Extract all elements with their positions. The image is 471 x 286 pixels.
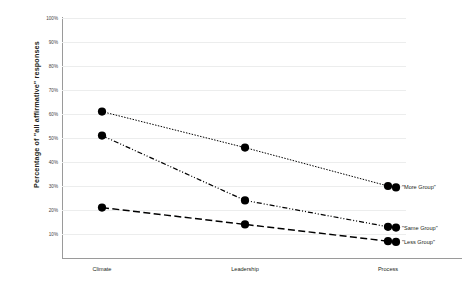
data-point-marker [98, 108, 106, 116]
series-end-marker [392, 224, 400, 232]
data-point-marker [241, 144, 249, 152]
data-point-marker [384, 223, 392, 231]
data-point-marker [98, 132, 106, 140]
data-point-marker [241, 220, 249, 228]
series-label: "More Group" [402, 184, 436, 190]
series-end-marker [392, 238, 400, 246]
data-point-marker [384, 182, 392, 190]
series-lines [0, 0, 471, 286]
series-line [102, 112, 396, 188]
series-label: "Same Group" [402, 225, 438, 231]
series-label: "Less Group" [402, 239, 435, 245]
series-line [102, 136, 396, 228]
line-chart: Percentage of "all affirmative" response… [0, 0, 471, 286]
series-end-marker [392, 183, 400, 191]
data-point-marker [241, 196, 249, 204]
data-point-marker [384, 237, 392, 245]
data-point-marker [98, 204, 106, 212]
